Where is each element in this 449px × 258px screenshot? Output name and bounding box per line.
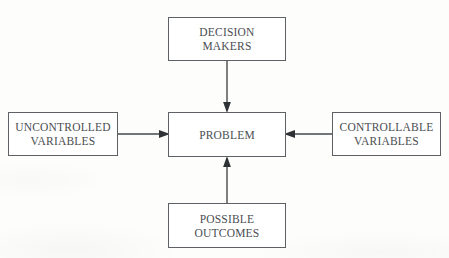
page-title-cropped (0, 0, 449, 5)
node-possible-outcomes-label: POSSIBLE OUTCOMES (195, 212, 260, 240)
node-problem-label: PROBLEM (199, 128, 255, 142)
connector-possible-outcomes-to-problem (220, 156, 234, 205)
connector-uncontrolled-variables-to-problem (117, 127, 170, 141)
node-controllable-variables: CONTROLLABLE VARIABLES (332, 112, 441, 156)
connector-decision-makers-to-problem (220, 61, 234, 113)
node-decision-makers: DECISION MAKERS (168, 17, 286, 61)
connector-controllable-variables-to-problem (284, 127, 334, 141)
node-uncontrolled-variables-label: UNCONTROLLED VARIABLES (15, 120, 111, 148)
node-controllable-variables-label: CONTROLLABLE VARIABLES (340, 120, 434, 148)
diagram-canvas: DECISION MAKERS UNCONTROLLED VARIABLES P… (0, 0, 449, 258)
node-uncontrolled-variables: UNCONTROLLED VARIABLES (8, 112, 118, 156)
node-problem: PROBLEM (168, 112, 286, 157)
node-possible-outcomes: POSSIBLE OUTCOMES (168, 203, 286, 248)
node-decision-makers-label: DECISION MAKERS (199, 25, 254, 53)
